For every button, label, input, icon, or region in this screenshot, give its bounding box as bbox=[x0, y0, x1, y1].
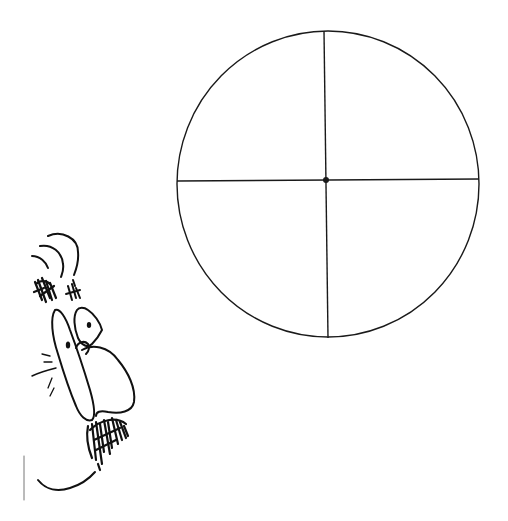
chin-curve bbox=[38, 472, 95, 490]
center-dot bbox=[323, 177, 329, 183]
whisker-line-3 bbox=[32, 368, 56, 376]
drawing-canvas bbox=[0, 0, 508, 521]
whisker-line-5 bbox=[50, 388, 54, 396]
right-pupil bbox=[87, 322, 91, 328]
left-eyebrow bbox=[34, 278, 56, 302]
right-eyebrow bbox=[66, 280, 80, 300]
face-sketch bbox=[24, 234, 134, 500]
whisker-line-4 bbox=[48, 378, 52, 388]
left-pupil bbox=[66, 342, 70, 349]
quadrant-circle bbox=[177, 31, 479, 338]
drawing-svg bbox=[0, 0, 508, 521]
vertical-axis-line bbox=[324, 31, 328, 338]
mustache bbox=[87, 418, 128, 470]
hair-arc-inner bbox=[32, 256, 48, 268]
nose bbox=[82, 347, 134, 416]
whisker-line-1 bbox=[42, 354, 50, 356]
